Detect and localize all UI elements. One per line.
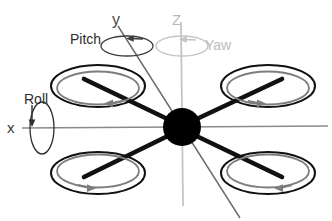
rotor-bottom-left (51, 152, 145, 194)
pitch-label: Pitch (70, 32, 101, 46)
yaw-label: Yaw (205, 38, 231, 52)
rotor-spin-arrow-head-icon (87, 184, 96, 192)
y-axis-label: y (112, 12, 120, 28)
rotor-spin-arrow-shaft (282, 185, 292, 188)
diagram-canvas (0, 0, 332, 221)
pitch-rotation-indicator (101, 35, 153, 56)
center-hub (163, 108, 201, 146)
z-axis-label: Z (172, 12, 181, 27)
yaw-arrow-head-icon (179, 36, 187, 43)
roll-label: Roll (24, 92, 48, 106)
x-axis-label: x (7, 120, 15, 135)
rotor-spin-arrow-shaft (78, 185, 88, 188)
quadcopter-axes-diagram: x y Z Roll Pitch Yaw (0, 0, 332, 221)
rotor-spin-arrow-head-icon (274, 184, 283, 192)
rotor-bottom-right (221, 152, 315, 194)
